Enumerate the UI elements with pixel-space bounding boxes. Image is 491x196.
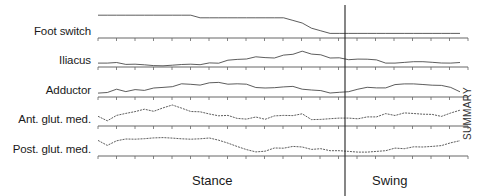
emg-trace [98,51,460,66]
summary-annotation: SUMMARY [462,87,473,140]
phase-label-stance: Stance [192,173,232,188]
emg-trace [98,15,460,33]
emg-trace [98,105,460,121]
emg-plot-area [0,0,491,196]
emg-trace [98,138,460,153]
emg-trace [98,82,460,93]
phase-label-swing: Swing [372,173,407,188]
